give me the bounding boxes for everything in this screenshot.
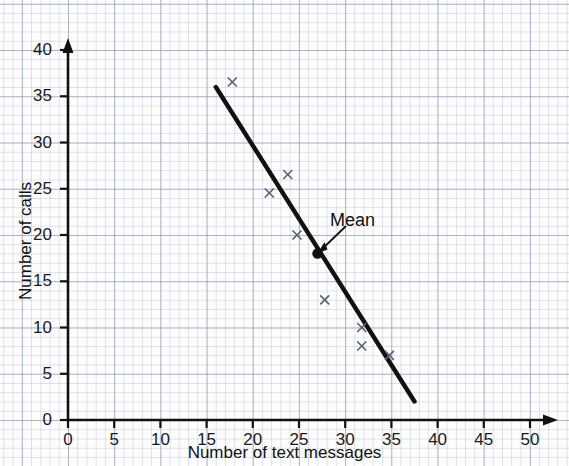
data-point [228, 78, 236, 86]
data-point [284, 171, 292, 179]
scatter-plot-figure: 0 5 10 15 20 25 30 35 40 0 5 10 15 20 25… [0, 0, 569, 466]
y-tick-label-30: 30 [22, 133, 52, 153]
y-axis-title: Number of calls [16, 182, 36, 300]
data-point [293, 231, 301, 239]
data-point [358, 342, 366, 350]
y-tick-label-10: 10 [22, 318, 52, 338]
data-point [358, 324, 366, 332]
data-point [265, 189, 273, 197]
y-tick-label-0: 0 [22, 410, 52, 430]
data-point [321, 296, 329, 304]
y-tick-label-40: 40 [22, 40, 52, 60]
y-tick-label-5: 5 [22, 364, 52, 384]
plot-area [0, 0, 569, 466]
x-axis-title: Number of text messages [0, 443, 569, 463]
y-tick-label-35: 35 [22, 86, 52, 106]
mean-label: Mean [330, 210, 375, 231]
trend-line [216, 87, 415, 402]
